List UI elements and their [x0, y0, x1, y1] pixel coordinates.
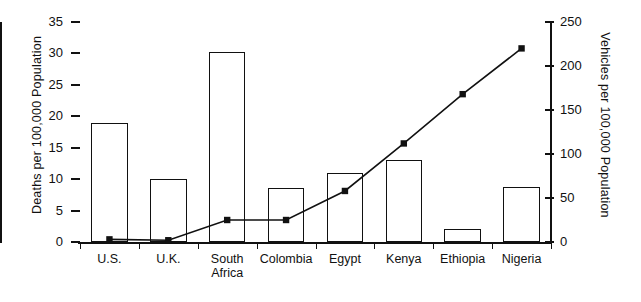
y-axis-right-tick: [545, 109, 554, 111]
x-axis-tick: [80, 243, 81, 249]
y-axis-right-tick-label: 200: [560, 59, 604, 72]
y-axis-right-tick: [545, 65, 554, 67]
x-axis-tick: [374, 243, 375, 249]
x-axis-tick: [492, 243, 493, 249]
y-axis-left-tick-label: 30: [23, 46, 63, 59]
y-axis-left-tick-label: 5: [23, 204, 63, 217]
y-axis-left-tick: [71, 115, 80, 117]
y-axis-left-tick-label: 0: [23, 235, 63, 248]
y-axis-left-tick-label: 10: [23, 172, 63, 185]
chart-container: Deaths per 100,000 Population Vehicles p…: [0, 0, 641, 302]
y-axis-left-tick-label: 15: [23, 141, 63, 154]
x-axis-tick: [316, 243, 317, 249]
y-axis-right-tick: [545, 241, 554, 243]
bar: [91, 123, 128, 242]
y-axis-right-tick-label: 150: [560, 103, 604, 116]
bar: [444, 229, 481, 242]
y-axis-left-tick: [71, 241, 80, 243]
y-axis-left-tick: [71, 52, 80, 54]
y-axis-right-tick: [545, 153, 554, 155]
x-axis-tick: [257, 243, 258, 249]
y-axis-left-tick: [71, 178, 80, 180]
bar: [150, 179, 187, 242]
y-axis-left-tick: [71, 21, 80, 23]
x-axis-tick: [139, 243, 140, 249]
bar: [386, 160, 423, 242]
y-axis-right-tick-label: 50: [560, 191, 604, 204]
bar: [209, 52, 246, 242]
data-point-marker: [518, 45, 524, 51]
bar: [327, 173, 364, 242]
x-axis-tick: [551, 243, 552, 249]
x-axis-tick: [433, 243, 434, 249]
x-axis-tick: [198, 243, 199, 249]
data-point-marker: [459, 91, 465, 97]
x-axis-category-label: Nigeria: [484, 252, 559, 266]
y-axis-left-tick-label: 25: [23, 78, 63, 91]
y-axis-right-tick-label: 100: [560, 147, 604, 160]
y-axis-left-tick: [71, 147, 80, 149]
y-axis-left-tick: [71, 210, 80, 212]
data-point-marker: [401, 140, 407, 146]
y-axis-right-tick-label: 0: [560, 235, 604, 248]
y-axis-left-tick-label: 20: [23, 109, 63, 122]
bar: [503, 187, 540, 242]
y-axis-left-tick: [71, 84, 80, 86]
y-axis-right-line: [550, 22, 552, 243]
y-axis-left-tick-label: 35: [23, 15, 63, 28]
y-axis-right-tick: [545, 21, 554, 23]
y-axis-left-line: [0, 22, 2, 243]
bar: [268, 188, 305, 242]
y-axis-right-tick: [545, 197, 554, 199]
y-axis-right-tick-label: 250: [560, 15, 604, 28]
